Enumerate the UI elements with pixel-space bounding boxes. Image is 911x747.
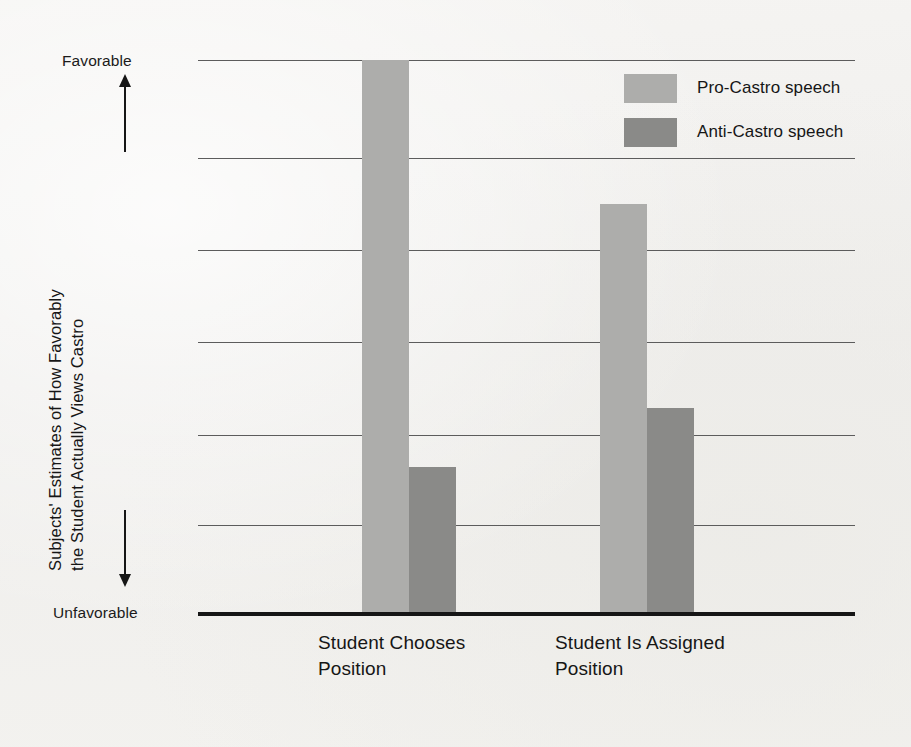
gridline-4 [198, 435, 855, 436]
chart-figure: Subjects' Estimates of How Favorably the… [0, 0, 911, 747]
bar-anti-castro-group-1 [647, 408, 694, 614]
x-axis-category-label-1: Student Is Assigned Position [555, 630, 725, 682]
y-axis-unfavorable-label: Unfavorable [53, 604, 138, 622]
gridline-3 [198, 342, 855, 343]
chart-legend: Pro-Castro speech Anti-Castro speech [624, 66, 843, 154]
gridline-0 [198, 60, 855, 61]
x-axis-baseline [198, 612, 855, 616]
arrow-down-shaft [124, 510, 126, 576]
gridline-1 [198, 158, 855, 159]
legend-swatch-anti-castro [624, 118, 677, 147]
legend-label-anti-castro: Anti-Castro speech [697, 122, 843, 142]
legend-swatch-pro-castro [624, 74, 677, 103]
y-axis-title: Subjects' Estimates of How Favorably the… [0, 0, 160, 747]
legend-item-anti-castro: Anti-Castro speech [624, 110, 843, 154]
arrow-up-shaft [124, 86, 126, 152]
bar-anti-castro-group-0 [409, 467, 456, 614]
bar-pro-castro-group-0 [362, 60, 409, 614]
y-axis-title-line-2: the Student Actually Views Castro [68, 319, 87, 571]
legend-label-pro-castro: Pro-Castro speech [697, 78, 840, 98]
y-axis-title-line-1: Subjects' Estimates of How Favorably [46, 289, 65, 571]
y-axis-favorable-label: Favorable [62, 52, 132, 70]
legend-item-pro-castro: Pro-Castro speech [624, 66, 843, 110]
arrow-down-icon [119, 574, 131, 587]
gridline-2 [198, 250, 855, 251]
x-axis-category-label-0: Student Chooses Position [318, 630, 465, 682]
gridline-5 [198, 525, 855, 526]
bar-pro-castro-group-1 [600, 204, 647, 614]
